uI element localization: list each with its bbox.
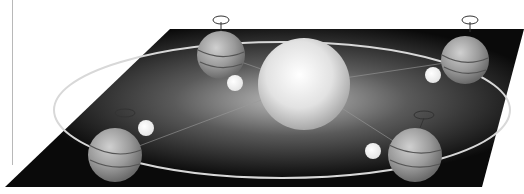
earth-top-right — [441, 16, 489, 84]
moon-bottom-right — [365, 143, 381, 159]
moon-bottom-left — [138, 120, 154, 136]
earth-top-left — [197, 16, 245, 79]
sun — [258, 38, 350, 130]
solar-orbit-diagram — [0, 0, 524, 194]
moon-top-right — [425, 67, 441, 83]
moon-top-left — [227, 75, 243, 91]
